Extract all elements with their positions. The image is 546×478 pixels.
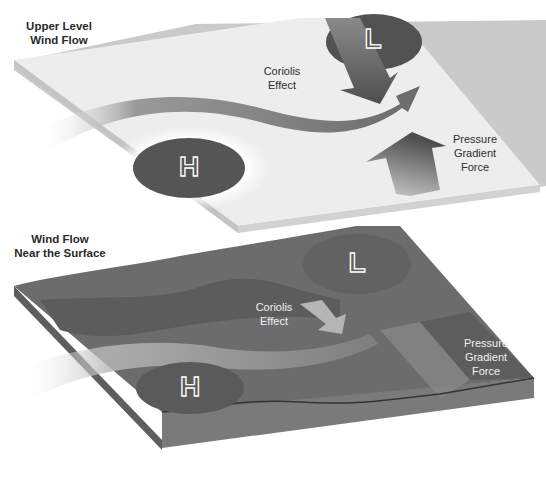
pressure-gradient-label-upper: Pressure Gradient Force [445,132,505,174]
coriolis-label-surface: Coriolis Effect [250,300,298,328]
pressure-gradient-label-surface: Pressure Gradient Force [456,336,516,378]
coriolis-label-upper: Coriolis Effect [258,64,306,92]
low-symbol-upper: L [358,24,388,54]
upper-panel-title: Upper Level Wind Flow [18,19,100,47]
high-symbol-upper: H [174,152,204,182]
surface-panel-title: Wind Flow Near the Surface [10,232,110,260]
low-symbol-surface: L [342,248,372,278]
high-symbol-surface: H [175,372,205,402]
